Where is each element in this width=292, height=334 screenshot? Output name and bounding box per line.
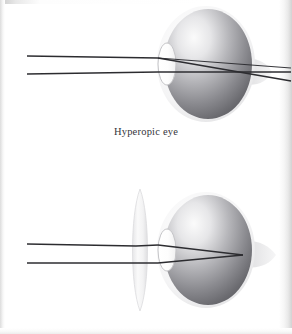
light-ray-upper-midsegment: [136, 245, 158, 246]
light-ray-lower-incoming: [27, 72, 158, 74]
light-ray-upper-incoming: [27, 56, 158, 58]
crystalline-lens: [158, 43, 176, 85]
panel-hyperopic-eye: Hyperopic eye: [0, 0, 292, 160]
panel-hyperopic-eye-corrected: Hyperopic eye, corrected: [0, 167, 292, 334]
light-ray-upper-incoming: [27, 244, 136, 246]
hyperopia-figure: Hyperopic eye: [0, 0, 292, 334]
caption-hyperopic-eye: Hyperopic eye: [0, 126, 292, 137]
corrective-lens: [133, 189, 148, 311]
eyeball: [164, 195, 252, 305]
crystalline-lens: [158, 229, 176, 271]
hyperopic-eye-corrected-diagram: [0, 167, 292, 334]
